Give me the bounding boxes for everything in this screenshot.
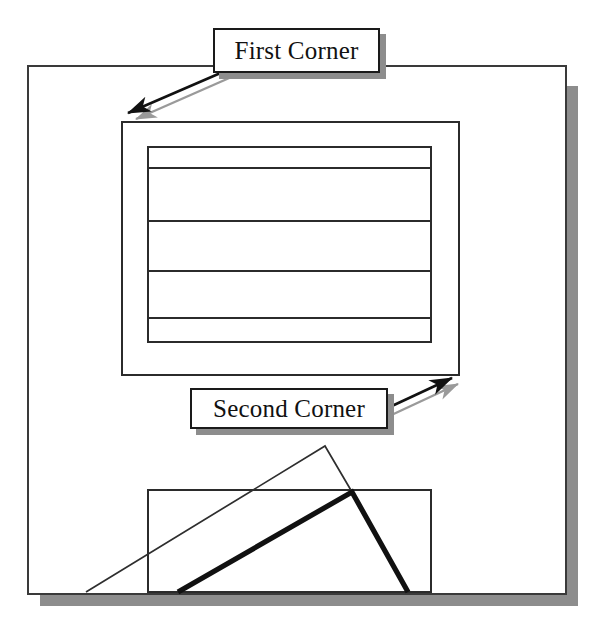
stack-inner-rect [148, 147, 431, 342]
first-corner-callout: First Corner [213, 28, 380, 73]
diagram-vector-layer [0, 0, 601, 627]
first-corner-label: First Corner [235, 38, 359, 63]
second-corner-label: Second Corner [213, 396, 365, 421]
second-corner-callout: Second Corner [190, 388, 388, 429]
nested-rectangle-stack [122, 122, 459, 375]
preview-rect [148, 490, 431, 592]
figure-canvas: First Corner Second Corner [0, 0, 601, 627]
